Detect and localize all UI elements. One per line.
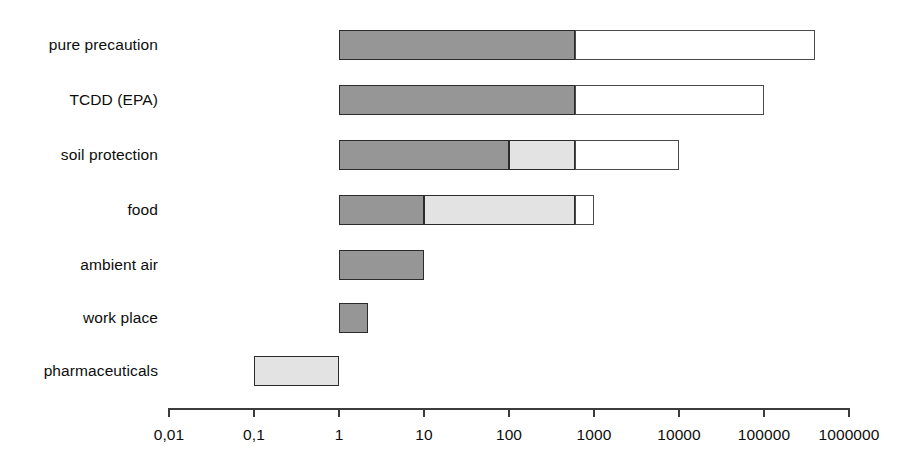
x-axis-tick-label: 100000	[738, 427, 790, 443]
x-axis-tick-label: 100	[496, 427, 522, 443]
x-axis-tick	[423, 408, 425, 417]
bar-row[interactable]	[0, 140, 905, 170]
x-axis-tick-label: 0,1	[243, 427, 265, 443]
bar-segment-dark[interactable]	[339, 250, 424, 280]
x-axis-tick-label: 10	[415, 427, 432, 443]
x-axis-tick-label: 1000000	[818, 427, 879, 443]
bar-segment-light[interactable]	[424, 195, 575, 225]
bar-row[interactable]	[0, 30, 905, 60]
bar-row[interactable]	[0, 195, 905, 225]
x-axis-tick-label: 1	[335, 427, 344, 443]
bar-segment-white[interactable]	[575, 140, 679, 170]
bar-row[interactable]	[0, 303, 905, 333]
x-axis-tick	[168, 408, 170, 417]
bar-segment-dark[interactable]	[339, 140, 509, 170]
bar-row[interactable]	[0, 250, 905, 280]
bar-segment-light[interactable]	[254, 356, 339, 386]
x-axis-tick	[508, 408, 510, 417]
x-axis-tick	[253, 408, 255, 417]
plot-area: pure precaution TCDD (EPA) soil protecti…	[0, 0, 905, 465]
x-axis-tick	[763, 408, 765, 417]
x-axis-tick-label: 10000	[657, 427, 701, 443]
bar-segment-white[interactable]	[575, 85, 764, 115]
bar-segment-dark[interactable]	[339, 85, 575, 115]
x-axis-tick	[848, 408, 850, 417]
bar-segment-white[interactable]	[575, 195, 594, 225]
bar-segment-dark[interactable]	[339, 30, 575, 60]
x-axis-tick	[338, 408, 340, 417]
bar-segment-white[interactable]	[575, 30, 815, 60]
x-axis-tick	[678, 408, 680, 417]
bar-segment-dark[interactable]	[339, 195, 424, 225]
bar-row[interactable]	[0, 356, 905, 386]
bar-segment-light[interactable]	[509, 140, 575, 170]
x-axis-tick-label: 0,01	[154, 427, 185, 443]
chart-root: pure precaution TCDD (EPA) soil protecti…	[0, 0, 905, 465]
bar-row[interactable]	[0, 85, 905, 115]
x-axis-tick-label: 1000	[577, 427, 612, 443]
x-axis-tick	[593, 408, 595, 417]
bar-segment-dark[interactable]	[339, 303, 368, 333]
